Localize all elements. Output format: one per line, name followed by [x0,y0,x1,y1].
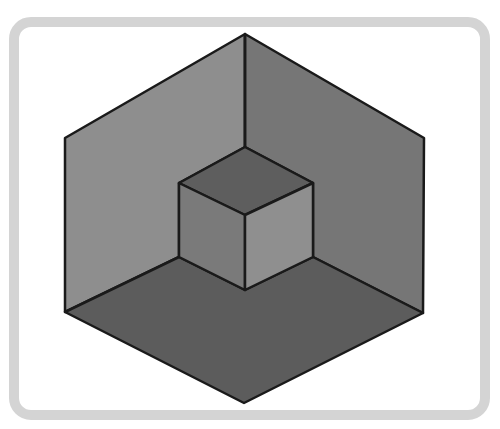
isometric-cube-figure [0,0,500,429]
